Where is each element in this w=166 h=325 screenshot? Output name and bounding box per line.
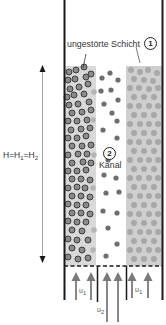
channel-label: Kanal xyxy=(99,161,122,170)
region-2-marker: 2 xyxy=(103,147,116,160)
fluidized-bed-diagram: ungestörte Schicht 1 2 Kanal H=H1=H2 u1 … xyxy=(0,0,166,325)
height-equation-label: H=H1=H2 xyxy=(3,151,38,161)
velocity-u1-right-label: u1 xyxy=(135,286,142,295)
inflow-arrows xyxy=(72,272,153,322)
region-1-marker: 1 xyxy=(144,37,157,50)
undisturbed-layer-label: ungestörte Schicht xyxy=(67,40,140,49)
velocity-u2-label: u2 xyxy=(97,306,104,315)
height-arrow xyxy=(40,65,46,263)
velocity-u1-left-label: u1 xyxy=(79,287,86,296)
leader-line-right xyxy=(136,47,140,63)
